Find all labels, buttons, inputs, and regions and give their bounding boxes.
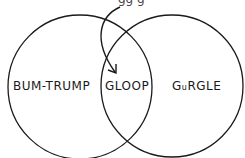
left-set-label: BUM-TRUMP	[13, 79, 90, 93]
intersection-label: GLOOP	[105, 79, 149, 93]
right-label-suffix: RGLE	[187, 79, 221, 93]
right-label-prefix: G	[172, 79, 182, 93]
right-set-label: GuRGLE	[172, 79, 221, 93]
